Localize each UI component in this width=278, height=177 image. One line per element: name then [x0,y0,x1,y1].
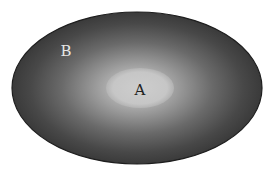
nested-set-diagram: B A [0,0,278,177]
set-b-label: B [60,42,71,60]
set-a-label: A [134,81,146,99]
